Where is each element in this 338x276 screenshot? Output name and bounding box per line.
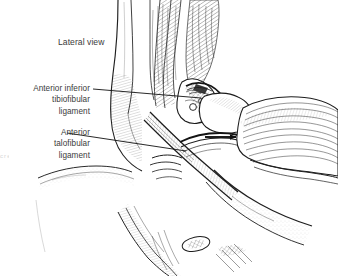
label-line: ligament [8,150,90,161]
anatomy-figure: Lateral view Anterior inferior tibiofibu… [0,0,338,276]
label-anterior-inferior-tibiofibular-ligament: Anterior inferior tibiofibular ligament [8,83,90,117]
label-line: Anterior [8,127,90,138]
view-title: Lateral view [58,37,104,48]
label-line: ligament [8,106,90,117]
label-line: talofibular [8,138,90,149]
label-anterior-talofibular-ligament: Anterior talofibular ligament [8,127,90,161]
label-line: tibiofibular [8,94,90,105]
cropped-edge-caption: c r e d i t [0,152,9,256]
label-line: Anterior inferior [8,83,90,94]
